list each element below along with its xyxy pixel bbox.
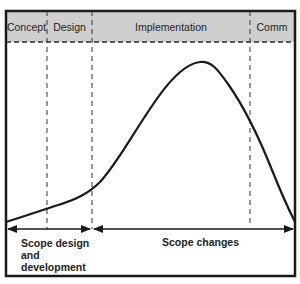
phase-label-concept: Concept <box>7 21 46 33</box>
scope-design-label-line1: Scope design <box>21 237 89 249</box>
scope-changes-label: Scope changes <box>162 236 239 248</box>
scope-design-label-line3: development <box>21 261 86 273</box>
phase-label-comm: Comm <box>257 21 288 33</box>
scope-design-label-line2: and <box>21 249 40 261</box>
phase-label-implementation: Implementation <box>135 21 207 33</box>
phase-label-design: Design <box>53 21 86 33</box>
scope-curve <box>6 62 295 222</box>
lifecycle-diagram: Concept Design Implementation Comm Scope… <box>0 0 300 284</box>
